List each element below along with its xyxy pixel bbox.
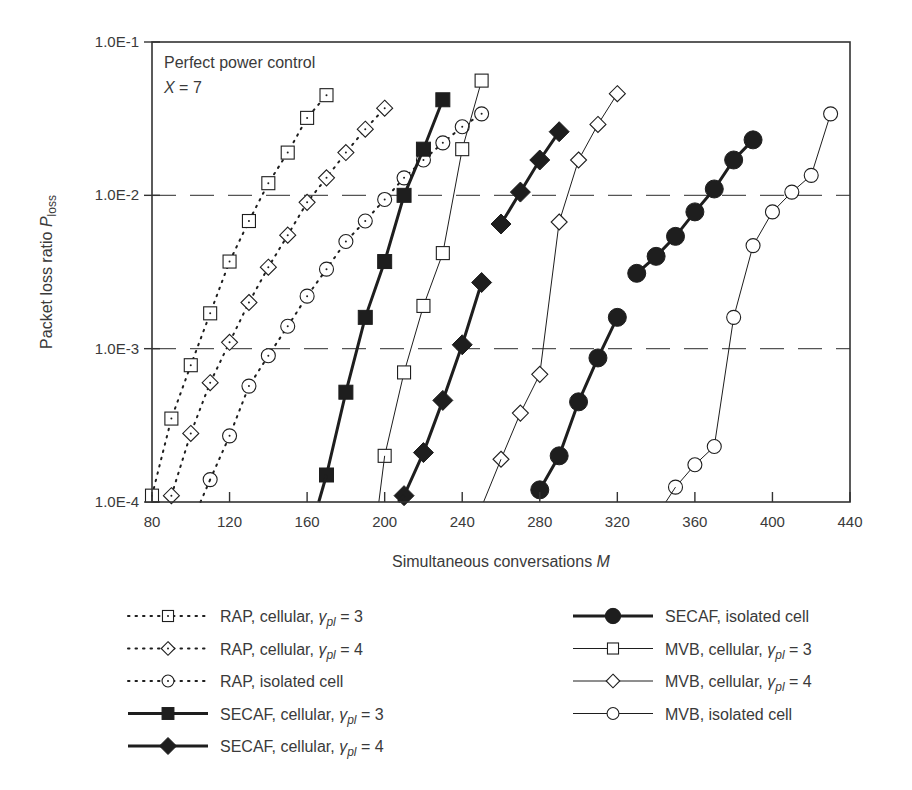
diamond-marker-icon	[530, 150, 550, 170]
square-marker-icon	[397, 188, 411, 202]
center-dot	[306, 201, 308, 203]
diamond-marker-icon	[606, 674, 620, 688]
diamond-marker-icon	[472, 273, 492, 293]
x-tick-label: 360	[682, 513, 707, 530]
center-dot	[267, 266, 269, 268]
diamond-marker-icon	[512, 405, 528, 421]
plot-frame	[152, 42, 850, 502]
x-tick-label: 120	[217, 513, 242, 530]
diamond-marker-icon	[549, 122, 569, 142]
square-marker-icon	[398, 366, 411, 379]
center-dot	[345, 152, 347, 154]
y-tick-label: 1.0E-2	[95, 186, 139, 203]
diamond-marker-icon	[510, 182, 530, 202]
legend-label: RAP, cellular, γpl = 4	[220, 641, 363, 662]
square-marker-icon	[436, 93, 450, 107]
center-dot	[229, 261, 231, 263]
series-line	[501, 132, 559, 224]
square-marker-icon	[162, 708, 174, 720]
center-dot	[167, 680, 169, 682]
center-dot	[209, 382, 211, 384]
data-series	[146, 74, 838, 506]
circle-marker-icon	[605, 608, 620, 623]
center-dot	[326, 94, 328, 96]
legend-label: RAP, cellular, γpl = 3	[220, 608, 363, 629]
diamond-marker-icon	[413, 443, 433, 463]
center-dot	[229, 435, 231, 437]
center-dot	[167, 615, 169, 617]
series-mvb-cellular-pl-4	[493, 86, 625, 468]
diamond-marker-icon	[609, 86, 625, 102]
legend-label: SECAF, isolated cell	[665, 608, 809, 625]
diamond-marker-icon	[532, 366, 548, 382]
y-tick-label: 1.0E-4	[95, 493, 139, 510]
center-dot	[326, 177, 328, 179]
diamond-marker-icon	[452, 335, 472, 355]
diamond-marker-icon	[160, 738, 177, 755]
center-dot	[170, 418, 172, 420]
x-tick-label: 400	[760, 513, 785, 530]
x-axis-title: Simultaneous conversations M	[392, 553, 611, 570]
center-dot	[422, 159, 424, 161]
square-marker-icon	[339, 385, 353, 399]
center-dot	[229, 341, 231, 343]
diamond-marker-icon	[590, 116, 606, 132]
center-dot	[326, 268, 328, 270]
center-dot	[403, 177, 405, 179]
center-dot	[364, 220, 366, 222]
circle-marker-icon	[824, 107, 838, 121]
legend-item: SECAF, isolated cell	[573, 608, 809, 625]
series-mvb-isolated-cell	[669, 107, 838, 494]
circle-marker-icon	[550, 447, 568, 465]
center-dot	[461, 126, 463, 128]
series-line	[501, 94, 617, 460]
legend-item: RAP, isolated cell	[128, 673, 343, 690]
x-tick-label: 80	[144, 513, 161, 530]
diamond-marker-icon	[433, 390, 453, 410]
circle-marker-icon	[647, 247, 665, 265]
circle-marker-icon	[628, 264, 646, 282]
center-dot	[248, 220, 250, 222]
circle-marker-icon	[765, 205, 779, 219]
circle-marker-icon	[727, 310, 741, 324]
series-mvb-cellular-pl-3	[378, 74, 488, 462]
circle-marker-icon	[686, 203, 704, 221]
center-dot	[190, 364, 192, 366]
diamond-marker-icon	[551, 214, 567, 230]
annotation-x-value: X = 7	[163, 79, 202, 96]
packet-loss-chart: 801201602002402803203604004401.0E-41.0E-…	[0, 0, 912, 790]
square-marker-icon	[378, 255, 392, 269]
circle-marker-icon	[705, 180, 723, 198]
center-dot	[306, 295, 308, 297]
square-marker-icon	[416, 142, 430, 156]
legend: RAP, cellular, γpl = 3RAP, cellular, γpl…	[128, 608, 812, 759]
center-dot	[209, 312, 211, 314]
center-dot	[306, 117, 308, 119]
circle-marker-icon	[688, 458, 702, 472]
center-dot	[248, 385, 250, 387]
annotation-power-control: Perfect power control	[164, 54, 315, 71]
center-dot	[170, 495, 172, 497]
diamond-marker-icon	[571, 152, 587, 168]
center-dot	[248, 302, 250, 304]
square-marker-icon	[436, 247, 449, 260]
circle-marker-icon	[804, 168, 818, 182]
circle-marker-icon	[570, 393, 588, 411]
square-marker-icon	[475, 74, 488, 87]
circle-marker-icon	[707, 440, 721, 454]
circle-marker-icon	[667, 227, 685, 245]
circle-marker-icon	[607, 708, 619, 720]
legend-label: MVB, cellular, γpl = 3	[665, 641, 812, 662]
legend-item: SECAF, cellular, γpl = 3	[128, 706, 384, 727]
y-axis-title: Packet loss ratio Ploss	[38, 195, 59, 349]
legend-label: RAP, isolated cell	[220, 673, 343, 690]
center-dot	[384, 107, 386, 109]
center-dot	[364, 128, 366, 130]
legend-item: RAP, cellular, γpl = 4	[128, 641, 363, 662]
center-dot	[442, 142, 444, 144]
x-tick-label: 280	[527, 513, 552, 530]
x-tick-label: 320	[605, 513, 630, 530]
square-marker-icon	[417, 299, 430, 312]
x-tick-label: 440	[837, 513, 862, 530]
center-dot	[384, 198, 386, 200]
